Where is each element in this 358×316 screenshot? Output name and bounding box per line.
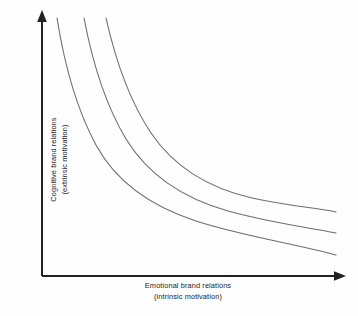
y-axis-label-line2: (extrinsic motivation) [59,60,70,260]
x-axis-label: Emotional brand relations (intrinsic mot… [66,281,310,302]
x-axis-arrowhead [334,271,346,281]
y-axis-arrowhead [37,10,47,22]
curve-inner [57,18,336,255]
y-axis-label: Cognitive brand relations (extrinsic mot… [49,60,70,260]
chart-figure: Emotional brand relations (intrinsic mot… [0,0,358,316]
curve-middle [84,18,336,233]
curve-outer [106,18,336,212]
y-axis-label-line1: Cognitive brand relations [49,60,60,260]
x-axis-label-line2: (intrinsic motivation) [66,292,310,303]
x-axis-label-line1: Emotional brand relations [66,281,310,292]
